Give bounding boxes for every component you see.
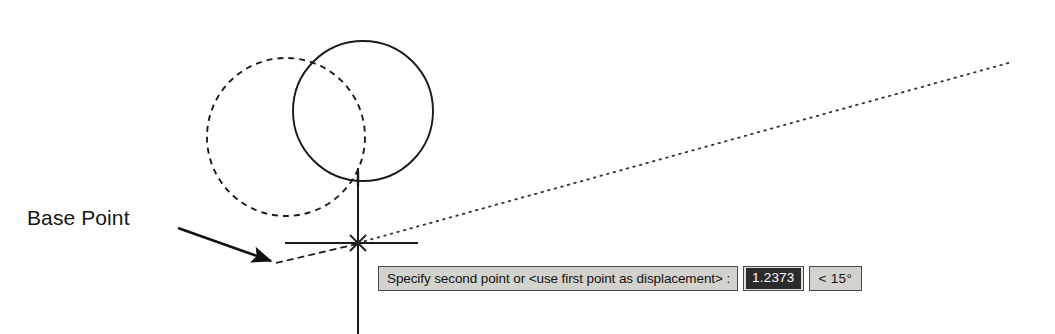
base-point-label: Base Point: [27, 206, 130, 230]
dynamic-input-tooltip[interactable]: Specify second point or <use first point…: [378, 266, 862, 291]
command-prompt-text: Specify second point or <use first point…: [387, 271, 730, 286]
distance-input-field[interactable]: 1.2373: [743, 266, 804, 291]
displacement-dashed-vector: [276, 244, 357, 263]
command-prompt-box: Specify second point or <use first point…: [378, 266, 738, 291]
base-point-leader-arrow: [178, 228, 271, 261]
dashed-original-circle: [207, 58, 365, 216]
angle-input-value[interactable]: < 15°: [819, 271, 853, 286]
polar-tracking-vector: [358, 62, 1012, 243]
angle-input-field[interactable]: < 15°: [809, 266, 863, 291]
cad-drawing-canvas: Base Point Specify second point or <use …: [0, 0, 1055, 334]
solid-moved-circle: [293, 41, 433, 181]
distance-input-value[interactable]: 1.2373: [746, 268, 801, 289]
